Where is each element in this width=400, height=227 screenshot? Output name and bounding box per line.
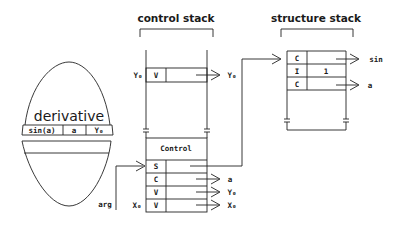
egg-cell-2: Y₀ <box>94 126 103 135</box>
control-top-tag: V <box>154 71 159 80</box>
frame-row-2-target: Y₀ <box>227 188 236 197</box>
arg-label: arg <box>98 200 112 209</box>
control-top-left-label: Y₀ <box>133 71 142 80</box>
derivative-egg: derivative sin(a) a Y₀ <box>22 62 113 206</box>
egg-cell-0: sin(a) <box>28 126 55 135</box>
arrow-icon <box>336 54 359 64</box>
frame-row-3-tag: V <box>154 201 159 210</box>
structure-row-2-tag: C <box>295 80 300 89</box>
structure-stack-bracket <box>281 29 353 37</box>
egg-label: derivative <box>34 108 104 124</box>
frame-row-3-left-label: X₀ <box>132 201 141 210</box>
structure-stack-title: structure stack <box>271 12 362 24</box>
control-stack-bracket <box>140 29 213 37</box>
frame-row-2-tag: V <box>154 188 159 197</box>
control-stack: Y₀ V Y₀ Control S C V V X₀ a Y₀ X₀ arg <box>98 50 281 212</box>
structure-row-1-tag: I <box>295 67 300 76</box>
structure-row-0-target: sin <box>369 55 383 64</box>
frame-row-3-target: X₀ <box>227 201 236 210</box>
control-frame-header: Control <box>160 144 192 153</box>
frame-row-1-tag: C <box>154 175 159 184</box>
egg-bottom-bowl <box>22 141 111 206</box>
control-top-target: Y₀ <box>227 71 236 80</box>
stack-diagram: control stack structure stack derivative… <box>0 0 400 227</box>
frame-row-0-tag: S <box>154 162 159 171</box>
arrow-icon <box>336 80 359 90</box>
arrow-icon <box>196 70 220 80</box>
arrow-icon <box>196 200 220 210</box>
structure-row-2-target: a <box>368 81 373 90</box>
egg-cell-1: a <box>72 126 77 135</box>
structure-row-1-value: 1 <box>324 67 329 76</box>
structure-row-0-tag: C <box>295 54 300 63</box>
structure-stack: C I 1 C sin a <box>284 51 383 130</box>
arrow-icon <box>196 187 220 197</box>
control-stack-title: control stack <box>137 12 215 24</box>
frame-row-1-target: a <box>228 175 233 184</box>
arrow-icon <box>196 174 220 184</box>
